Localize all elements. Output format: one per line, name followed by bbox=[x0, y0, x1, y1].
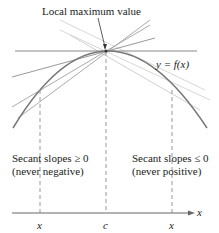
tick-x-right: x bbox=[169, 219, 174, 231]
tick-x-left: x bbox=[37, 219, 42, 231]
axis-label: x bbox=[197, 206, 202, 218]
secant-line bbox=[12, 25, 150, 107]
left-region-line1: Secant slopes ≥ 0 bbox=[12, 152, 89, 164]
secant-line bbox=[60, 20, 205, 90]
max-point bbox=[105, 50, 108, 53]
pointer-arrow bbox=[98, 18, 105, 47]
tick-c: c bbox=[103, 219, 108, 231]
curve-label: y = f(x) bbox=[156, 58, 189, 70]
axis-arrow-icon bbox=[188, 211, 195, 216]
local-max-label: Local maximum value bbox=[42, 5, 141, 17]
diagram-canvas bbox=[0, 0, 219, 233]
secant-line bbox=[18, 20, 150, 118]
arrow-head-icon bbox=[103, 44, 107, 50]
secant-line bbox=[70, 35, 200, 110]
right-region-line2: (never positive) bbox=[132, 165, 201, 177]
right-region-line1: Secant slopes ≤ 0 bbox=[132, 152, 209, 164]
left-region-line2: (never negative) bbox=[12, 165, 84, 177]
